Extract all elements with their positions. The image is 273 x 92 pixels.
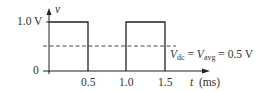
x-axis-var: t — [190, 76, 193, 88]
x-tick-label-0-5: 0.5 — [81, 77, 95, 89]
x-tick-label-1-5: 1.5 — [158, 77, 172, 89]
annotation-v1: V — [170, 48, 177, 60]
y-tick-label-top: 1.0 V — [17, 16, 42, 28]
x-tick-label-1-0: 1.0 — [119, 77, 133, 89]
y-axis-arrow-icon — [47, 8, 52, 15]
annotation-v2: V — [197, 48, 204, 60]
pulse-1 — [49, 22, 88, 71]
annotation-value: = 0.5 V — [215, 48, 253, 60]
annotation-sub-avg: avg — [204, 53, 216, 62]
y-axis-label: v — [55, 4, 60, 16]
x-axis-unit: (ms) — [199, 76, 220, 88]
dc-annotation: Vdc = Vavg = 0.5 V — [170, 49, 253, 62]
x-axis-label: t (ms) — [190, 77, 220, 89]
annotation-sub-dc: dc — [177, 53, 185, 62]
pulse-2 — [126, 22, 165, 71]
y-tick-label-zero: 0 — [33, 65, 39, 77]
waveform-plot — [0, 0, 273, 92]
annotation-eq1: = — [185, 48, 197, 60]
x-axis-arrow-icon — [202, 69, 210, 74]
